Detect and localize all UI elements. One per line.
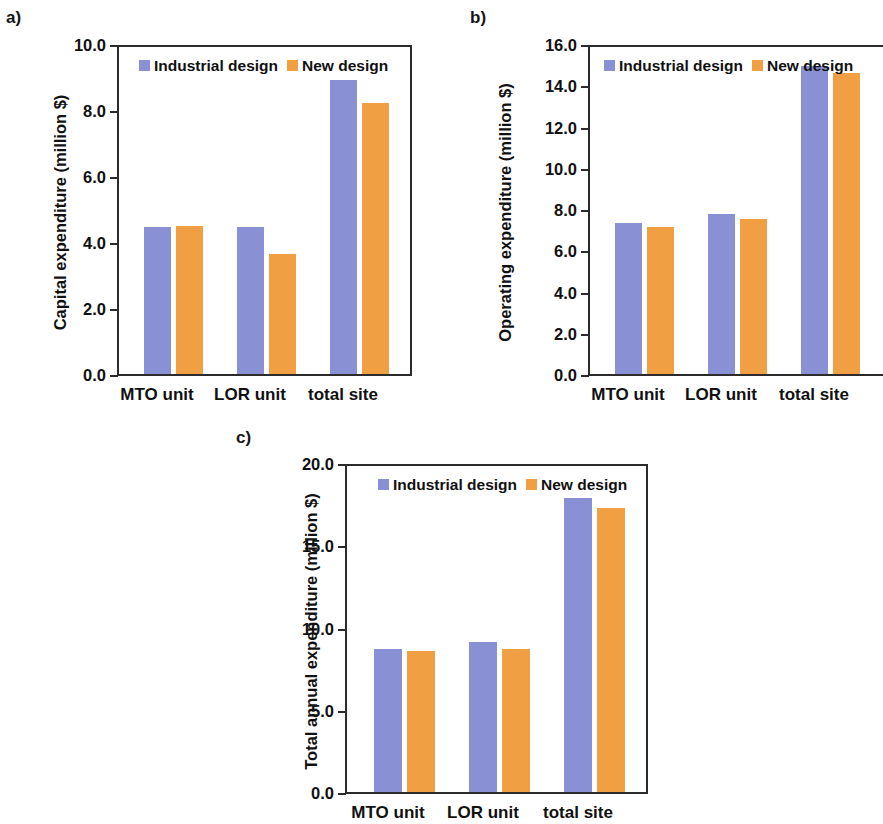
panel-c-ytick-label-2: 10.0 xyxy=(266,620,334,639)
panel-c-xtick-label-1: LOR unit xyxy=(436,803,530,823)
panel-b-legend-label-industrial: Industrial design xyxy=(619,58,743,74)
panel-c-xtick-label-2: total site xyxy=(531,803,625,823)
panel-a-xtick-label-1: LOR unit xyxy=(205,385,295,405)
panel-a-ytick-mark-1 xyxy=(110,309,118,311)
panel-b-ytick-mark-0 xyxy=(581,375,589,377)
bar-new-total xyxy=(362,103,389,374)
panel-c-xtick-label-0: MTO unit xyxy=(341,803,435,823)
panel-a-ytick-label-1: 2.0 xyxy=(40,300,106,319)
panel-a-ytick-label-2: 4.0 xyxy=(40,234,106,253)
bar-new-lor xyxy=(502,649,530,792)
panel-a-label: a) xyxy=(6,8,21,28)
panel-c-bars-layer xyxy=(347,466,646,792)
panel-b-legend-label-new: New design xyxy=(767,58,853,74)
panel-c-legend: Industrial design New design xyxy=(378,477,627,493)
panel-a-legend-label-industrial: Industrial design xyxy=(154,58,278,74)
panel-b-xtick-label-1: LOR unit xyxy=(676,385,766,405)
panel-a-ytick-label-0: 0.0 xyxy=(40,366,106,385)
panel-c-legend-entry-new: New design xyxy=(526,477,627,493)
legend-swatch-industrial-icon xyxy=(604,60,615,71)
bar-new-total xyxy=(597,508,625,792)
bar-new-lor xyxy=(269,254,296,375)
bar-industrial-total xyxy=(801,66,828,374)
bar-new-mto xyxy=(647,227,674,375)
panel-b-ytick-mark-7 xyxy=(581,86,589,88)
legend-swatch-new-icon xyxy=(287,60,298,71)
panel-a-legend-entry-industrial: Industrial design xyxy=(139,58,278,74)
panel-c-ytick-label-3: 15.0 xyxy=(266,537,334,556)
panel-a-ytick-label-3: 6.0 xyxy=(40,168,106,187)
panel-a-legend: Industrial design New design xyxy=(139,58,388,74)
bar-industrial-lor xyxy=(469,642,497,793)
bar-industrial-mto xyxy=(144,227,171,374)
panel-a-ytick-mark-0 xyxy=(110,375,118,377)
panel-c-ytick-label-0: 0.0 xyxy=(266,784,334,803)
panel-b-ytick-mark-2 xyxy=(581,293,589,295)
panel-b-legend-entry-new: New design xyxy=(752,58,853,74)
panel-b-ytick-label-8: 16.0 xyxy=(511,36,577,55)
panel-c-ytick-label-1: 5.0 xyxy=(266,702,334,721)
bar-new-mto xyxy=(407,651,435,792)
bar-industrial-total xyxy=(330,80,357,374)
panel-a-ytick-mark-3 xyxy=(110,177,118,179)
bar-industrial-mto xyxy=(374,649,402,792)
panel-c-legend-label-industrial: Industrial design xyxy=(393,477,517,493)
panel-b-xtick-label-0: MTO unit xyxy=(583,385,673,405)
panel-b-ytick-label-2: 4.0 xyxy=(511,284,577,303)
panel-b-ytick-label-4: 8.0 xyxy=(511,201,577,220)
panel-c-legend-label-new: New design xyxy=(541,477,627,493)
panel-c-ytick-label-4: 20.0 xyxy=(266,455,334,474)
panel-b-ytick-mark-8 xyxy=(581,45,589,47)
legend-swatch-industrial-icon xyxy=(139,60,150,71)
panel-b-ytick-label-3: 6.0 xyxy=(511,242,577,261)
panel-a-legend-label-new: New design xyxy=(302,58,388,74)
panel-c-ytick-mark-3 xyxy=(338,546,346,548)
panel-b-legend: Industrial design New design xyxy=(604,58,853,74)
panel-c-label: c) xyxy=(236,428,251,448)
panel-c-ytick-mark-2 xyxy=(338,629,346,631)
panel-a-ytick-mark-5 xyxy=(110,45,118,47)
panel-b-ytick-label-1: 2.0 xyxy=(511,325,577,344)
panel-b-ytick-label-0: 0.0 xyxy=(511,366,577,385)
bar-industrial-total xyxy=(564,498,592,793)
panel-a-ytick-label-4: 8.0 xyxy=(40,102,106,121)
panel-b-ytick-mark-3 xyxy=(581,251,589,253)
panel-c-ytick-mark-1 xyxy=(338,711,346,713)
bar-industrial-lor xyxy=(708,214,735,374)
panel-c: c) Total annual expenditure (million $) … xyxy=(200,420,670,824)
panel-a-ytick-mark-2 xyxy=(110,243,118,245)
bar-industrial-mto xyxy=(615,223,642,374)
panel-b-label: b) xyxy=(470,8,486,28)
panel-b-legend-entry-industrial: Industrial design xyxy=(604,58,743,74)
panel-a-legend-entry-new: New design xyxy=(287,58,388,74)
bar-industrial-lor xyxy=(237,227,264,374)
panel-c-ytick-mark-0 xyxy=(338,793,346,795)
panel-a-bars-layer xyxy=(119,47,410,374)
panel-b-ytick-mark-6 xyxy=(581,128,589,130)
panel-a-xtick-label-0: MTO unit xyxy=(112,385,202,405)
panel-a-ytick-label-5: 10.0 xyxy=(40,36,106,55)
panel-b-bars-layer xyxy=(590,47,883,374)
panel-b-ytick-label-7: 14.0 xyxy=(511,77,577,96)
panel-b: b) Operating expenditure (million $) 0.0… xyxy=(440,0,881,420)
panel-b-plot-frame xyxy=(588,45,883,376)
bar-new-total xyxy=(833,73,860,374)
panel-c-ytick-mark-4 xyxy=(338,464,346,466)
panel-a-xtick-label-2: total site xyxy=(298,385,388,405)
panel-a-plot-frame xyxy=(117,45,412,376)
bar-new-lor xyxy=(740,219,767,374)
legend-swatch-new-icon xyxy=(526,479,537,490)
legend-swatch-industrial-icon xyxy=(378,479,389,490)
panel-c-plot-frame xyxy=(345,464,648,794)
panel-b-ytick-label-6: 12.0 xyxy=(511,119,577,138)
panel-b-ytick-mark-1 xyxy=(581,334,589,336)
panel-b-ytick-label-5: 10.0 xyxy=(511,160,577,179)
panel-b-ytick-mark-4 xyxy=(581,210,589,212)
panel-c-legend-entry-industrial: Industrial design xyxy=(378,477,517,493)
panel-a-ytick-mark-4 xyxy=(110,111,118,113)
panel-b-ytick-mark-5 xyxy=(581,169,589,171)
bar-new-mto xyxy=(176,226,203,375)
panel-a: a) Capital expenditure (million $) 0.0 2… xyxy=(0,0,440,420)
legend-swatch-new-icon xyxy=(752,60,763,71)
panel-b-xtick-label-2: total site xyxy=(769,385,859,405)
